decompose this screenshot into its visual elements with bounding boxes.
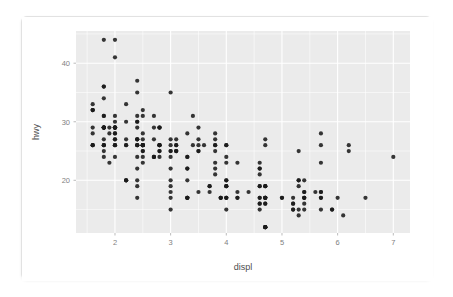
data-point [102, 155, 106, 159]
data-point [91, 108, 95, 112]
data-point [224, 161, 228, 165]
data-point [280, 196, 284, 200]
data-point [391, 155, 395, 159]
data-point [135, 120, 139, 124]
data-point [157, 143, 161, 147]
data-point [135, 114, 139, 118]
data-point [213, 149, 217, 153]
data-point [235, 161, 239, 165]
data-point [174, 143, 178, 147]
data-point [107, 161, 111, 165]
data-point [152, 114, 156, 118]
data-point [341, 213, 345, 217]
data-point [213, 166, 217, 170]
data-point [141, 161, 145, 165]
data-point [152, 126, 156, 130]
data-point [297, 178, 301, 182]
data-point [213, 172, 217, 176]
panel-background [76, 31, 410, 233]
data-point [113, 55, 117, 59]
data-point [235, 190, 239, 194]
data-point [191, 143, 195, 147]
data-point [135, 155, 139, 159]
data-point [185, 178, 189, 182]
data-point [135, 196, 139, 200]
data-point [113, 126, 117, 130]
data-point [135, 143, 139, 147]
data-point [91, 102, 95, 106]
data-point [297, 184, 301, 188]
data-point [124, 178, 128, 182]
data-point [319, 207, 323, 211]
data-point [135, 178, 139, 182]
data-point [124, 102, 128, 106]
data-point [124, 143, 128, 147]
data-point [208, 184, 212, 188]
data-point [102, 143, 106, 147]
data-point [347, 143, 351, 147]
x-axis-tick-label: 6 [336, 238, 340, 247]
data-point [157, 126, 161, 130]
data-point [113, 155, 117, 159]
data-point [219, 196, 223, 200]
x-axis-tick-label: 4 [224, 238, 228, 247]
data-point [141, 149, 145, 153]
data-point [169, 166, 173, 170]
data-point [169, 137, 173, 141]
data-point [319, 190, 323, 194]
data-point [196, 149, 200, 153]
data-point [258, 161, 262, 165]
data-point [141, 137, 145, 141]
data-point [263, 202, 267, 206]
data-point [113, 131, 117, 135]
scatter-plot-card: 234567 203040 displ hwy [21, 16, 432, 280]
data-point [319, 131, 323, 135]
data-point [258, 184, 262, 188]
data-point [302, 196, 306, 200]
data-point [196, 126, 200, 130]
data-point [302, 202, 306, 206]
data-point [258, 196, 262, 200]
data-point [297, 149, 301, 153]
data-point [102, 96, 106, 100]
data-point [135, 79, 139, 83]
data-point [263, 184, 267, 188]
data-point [113, 114, 117, 118]
data-point [224, 196, 228, 200]
data-point [169, 184, 173, 188]
data-point [169, 196, 173, 200]
data-point [196, 143, 200, 147]
data-point [113, 120, 117, 124]
data-point [91, 143, 95, 147]
data-point [102, 114, 106, 118]
data-point [208, 190, 212, 194]
data-point [213, 161, 217, 165]
data-point [174, 149, 178, 153]
data-point [330, 207, 334, 211]
data-point [196, 137, 200, 141]
data-point [185, 196, 189, 200]
data-point [135, 184, 139, 188]
data-point [363, 196, 367, 200]
data-point [224, 178, 228, 182]
data-point [224, 143, 228, 147]
data-point [113, 143, 117, 147]
data-point [224, 155, 228, 159]
data-point [169, 190, 173, 194]
data-point [313, 190, 317, 194]
data-point [263, 143, 267, 147]
data-point [107, 126, 111, 130]
data-point [263, 137, 267, 141]
data-point [224, 184, 228, 188]
data-point [102, 126, 106, 130]
data-point [169, 143, 173, 147]
data-point [152, 155, 156, 159]
data-point [141, 131, 145, 135]
data-point [213, 131, 217, 135]
data-point [169, 90, 173, 94]
y-axis-tick-label: 40 [62, 59, 70, 68]
x-axis-tick-label: 5 [280, 238, 284, 247]
data-point [102, 137, 106, 141]
y-axis-tick-label: 30 [62, 118, 70, 127]
data-point [263, 196, 267, 200]
